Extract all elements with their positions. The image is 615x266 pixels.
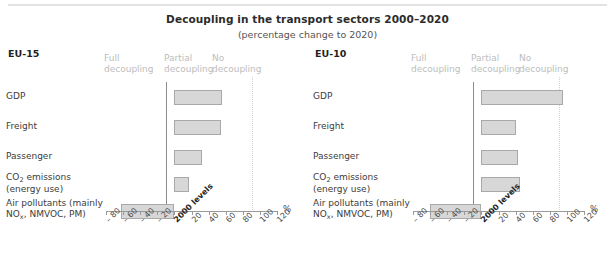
panel-eu-15: EU-15 Full decoupling Partial decoupling… <box>0 44 307 266</box>
category-label: Air pollutants (mainlyNOx, NMVOC, PM) <box>313 198 410 220</box>
zone-full-line1: Full <box>104 53 154 64</box>
zone-no-line2: decoupling <box>212 64 262 75</box>
top-divider <box>8 4 607 6</box>
zero-reference-line <box>166 82 167 210</box>
bar <box>481 150 518 165</box>
axis-tick-label: – 80 <box>411 206 429 224</box>
category-label: Air pollutants (mainlyNOx, NMVOC, PM) <box>6 198 103 220</box>
category-label: Freight <box>313 121 344 132</box>
panel-eu-10: EU-10 Full decoupling Partial decoupling… <box>307 44 614 266</box>
category-label: GDP <box>313 91 332 102</box>
zone-partial-line1: Partial <box>471 53 521 64</box>
panel-title-eu-10: EU-10 <box>315 48 346 59</box>
zone-full-line1: Full <box>411 53 461 64</box>
zone-partial-line2: decoupling <box>164 64 214 75</box>
bar <box>174 90 222 105</box>
zone-partial-line1: Partial <box>164 53 214 64</box>
category-label: CO2 emissions(energy use) <box>313 172 378 194</box>
zone-full-line2: decoupling <box>104 64 154 75</box>
zone-label-full-decoupling: Full decoupling <box>104 53 154 75</box>
zone-no-line1: No <box>519 53 569 64</box>
category-label: Passenger <box>6 151 52 162</box>
bar <box>174 150 201 165</box>
category-label: CO2 emissions(energy use) <box>6 172 71 194</box>
zone-label-partial-decoupling: Partial decoupling <box>471 53 521 75</box>
panel-title-eu-15: EU-15 <box>8 48 39 59</box>
bar <box>481 90 562 105</box>
zone-no-line2: decoupling <box>519 64 569 75</box>
axis-unit-label: % <box>590 204 598 214</box>
zero-reference-line <box>473 82 474 210</box>
axis-tick-label: 100 <box>258 207 275 224</box>
zone-partial-line2: decoupling <box>471 64 521 75</box>
chart-subtitle: (percentage change to 2020) <box>0 29 615 40</box>
axis-tick-label: – 80 <box>104 206 122 224</box>
axis-unit-label: % <box>283 204 291 214</box>
category-label: Passenger <box>313 151 359 162</box>
bar <box>174 177 189 192</box>
zone-label-no-decoupling: No decoupling <box>519 53 569 75</box>
zone-label-full-decoupling: Full decoupling <box>411 53 461 75</box>
no-decoupling-reference-line <box>252 77 253 210</box>
zone-label-partial-decoupling: Partial decoupling <box>164 53 214 75</box>
axis-tick-label: 100 <box>565 207 582 224</box>
chart-title: Decoupling in the transport sectors 2000… <box>0 13 615 25</box>
category-label: GDP <box>6 91 25 102</box>
zone-no-line1: No <box>212 53 262 64</box>
bar <box>174 120 220 135</box>
zone-label-no-decoupling: No decoupling <box>212 53 262 75</box>
bar <box>481 120 516 135</box>
zone-full-line2: decoupling <box>411 64 461 75</box>
category-label: Freight <box>6 121 37 132</box>
